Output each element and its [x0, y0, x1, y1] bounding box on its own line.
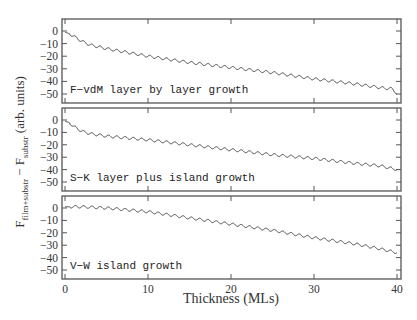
x-tick-label: 10 — [142, 283, 154, 295]
y-axis-title: Ffilm+substr − Fsubstr (arb. units) — [12, 76, 30, 228]
y-tick-label: −30 — [40, 239, 58, 251]
x-tick-label: 40 — [391, 283, 403, 295]
y-tick-label: −40 — [40, 164, 58, 176]
y-tick-label: −20 — [40, 50, 58, 62]
y-tick-label: −10 — [40, 214, 58, 226]
panel-label: S−K layer plus island growth — [70, 172, 255, 184]
data-line — [65, 121, 397, 170]
y-tick-label: 0 — [52, 25, 58, 37]
y-tick-label: −50 — [40, 176, 58, 188]
y-tick-label: 0 — [52, 202, 58, 214]
panel-label: V−W island growth — [70, 260, 182, 272]
data-line — [65, 206, 397, 254]
svg-text:Ffilm+substr − Fsubstr (arb. u: Ffilm+substr − Fsubstr (arb. units) — [12, 76, 30, 228]
y-tick-label: −20 — [40, 227, 58, 239]
y-tick-label: −50 — [40, 264, 58, 276]
panel-3: 0−10−20−30−40−50V−W island growth — [40, 196, 401, 279]
panel-label: F−vdM layer by layer growth — [70, 84, 248, 96]
y-tick-label: −50 — [40, 88, 58, 100]
x-axis-title: Thickness (MLs) — [183, 291, 279, 307]
x-tick-label: 0 — [62, 283, 68, 295]
panel-1: 0−10−20−30−40−50F−vdM layer by layer gro… — [40, 19, 401, 103]
y-tick-label: 0 — [52, 114, 58, 126]
y-tick-label: −40 — [40, 252, 58, 264]
y-tick-label: −40 — [40, 75, 58, 87]
y-tick-label: −30 — [40, 151, 58, 163]
y-tick-label: −20 — [40, 139, 58, 151]
y-tick-label: −30 — [40, 63, 58, 75]
chart-panels: 0−10−20−30−40−50F−vdM layer by layer gro… — [40, 19, 401, 279]
chart-figure: 0−10−20−30−40−50F−vdM layer by layer gro… — [0, 0, 417, 320]
y-tick-label: −10 — [40, 38, 58, 50]
y-tick-label: −10 — [40, 126, 58, 138]
x-tick-label: 30 — [308, 283, 320, 295]
panel-2: 0−10−20−30−40−50S−K layer plus island gr… — [40, 108, 401, 191]
